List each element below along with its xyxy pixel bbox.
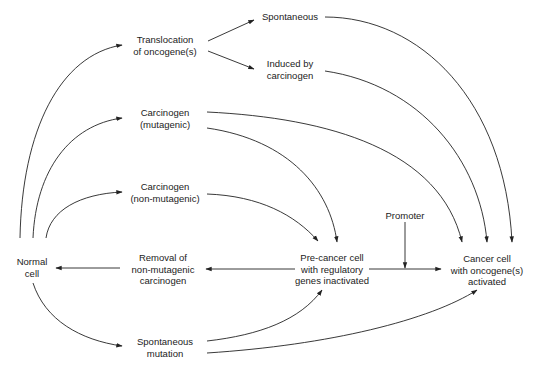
edge-carc-mutagenic-to-precancer — [207, 128, 337, 242]
node-translocation: Translocation of oncogene(s) — [133, 34, 196, 57]
edges-layer — [0, 0, 538, 372]
normal-line2: cell — [17, 268, 48, 280]
precancer-line3: genes inactivated — [295, 275, 369, 287]
node-precancer: Pre-cancer cell with regulatory genes in… — [295, 252, 369, 287]
edge-translocation-to-spontaneous — [208, 20, 254, 41]
node-cancer: Cancer cell with oncogene(s) activated — [451, 253, 523, 288]
edge-normal-to-carc-mutagenic — [33, 118, 122, 238]
edge-carc-nonmutagenic-to-precancer — [207, 194, 318, 241]
edge-normal-to-carc-nonmutagenic — [46, 192, 122, 238]
node-carcinogen-nonmutagenic: Carcinogen (non-mutagenic) — [130, 181, 199, 204]
carc-nonmut-line1: Carcinogen — [130, 181, 199, 193]
precancer-line1: Pre-cancer cell — [295, 252, 369, 264]
removal-line3: carcinogen — [132, 275, 195, 287]
translocation-line1: Translocation — [133, 34, 196, 46]
normal-line1: Normal — [17, 256, 48, 268]
precancer-line2: with regulatory — [295, 264, 369, 276]
carcinogenesis-flow-diagram: Translocation of oncogene(s) Spontaneous… — [0, 0, 538, 372]
spont-mut-line2: mutation — [137, 348, 193, 360]
node-normal-cell: Normal cell — [17, 256, 48, 279]
node-spontaneous: Spontaneous — [262, 11, 318, 23]
node-carcinogen-mutagenic: Carcinogen (mutagenic) — [140, 107, 190, 130]
edge-spont-mutation-to-precancer — [207, 290, 322, 341]
carc-mut-line2: (mutagenic) — [140, 119, 190, 131]
cancer-line3: activated — [451, 276, 523, 288]
spont-mut-line1: Spontaneous — [137, 336, 193, 348]
removal-line1: Removal of — [132, 252, 195, 264]
carc-nonmut-line2: (non-mutagenic) — [130, 193, 199, 205]
spontaneous-line1: Spontaneous — [262, 11, 318, 23]
edge-translocation-to-induced — [208, 51, 254, 69]
induced-line1: Induced by — [267, 58, 313, 70]
node-removal: Removal of non-mutagenic carcinogen — [132, 252, 195, 287]
edge-spontaneous-to-cancer — [325, 17, 512, 242]
cancer-line1: Cancer cell — [451, 253, 523, 265]
promoter-line1: Promoter — [385, 210, 424, 222]
node-spontaneous-mutation: Spontaneous mutation — [137, 336, 193, 359]
node-induced: Induced by carcinogen — [267, 58, 313, 81]
carc-mut-line1: Carcinogen — [140, 107, 190, 119]
translocation-line2: of oncogene(s) — [133, 46, 196, 58]
edge-carc-mutagenic-to-cancer — [207, 112, 462, 242]
edge-normal-to-spont-mutation — [33, 283, 122, 346]
cancer-line2: with oncogene(s) — [451, 265, 523, 277]
induced-line2: carcinogen — [267, 70, 313, 82]
node-promoter: Promoter — [385, 210, 424, 222]
edge-spont-mutation-to-cancer — [207, 290, 477, 353]
removal-line2: non-mutagenic — [132, 264, 195, 276]
